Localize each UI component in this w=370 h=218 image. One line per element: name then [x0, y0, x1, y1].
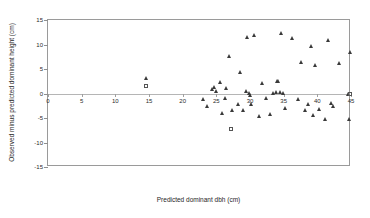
data-point-triangle: [323, 117, 327, 121]
y-axis-label-text: Observed minus predicted dominant height…: [8, 23, 15, 162]
y-tick-mark: [44, 69, 48, 70]
data-point-triangle: [296, 97, 300, 101]
data-point-triangle: [260, 81, 264, 85]
y-tick-mark: [44, 118, 48, 119]
x-tick-mark: [48, 94, 49, 97]
data-point-square: [348, 92, 352, 96]
data-point-triangle: [223, 96, 227, 100]
data-point-triangle: [245, 35, 249, 39]
data-point-triangle: [337, 61, 341, 65]
zero-reference-line: [48, 94, 349, 95]
x-tick-mark: [216, 94, 217, 97]
data-point-triangle: [290, 36, 294, 40]
data-point-triangle: [257, 114, 261, 118]
data-point-triangle: [252, 33, 256, 37]
x-tick-mark: [149, 94, 150, 97]
x-tick-mark: [82, 94, 83, 97]
data-point-triangle: [313, 63, 317, 67]
y-tick-mark: [44, 143, 48, 144]
x-tick-mark: [183, 94, 184, 97]
y-tick-label: 5: [40, 66, 43, 72]
data-point-triangle: [238, 70, 242, 74]
data-point-triangle: [218, 80, 222, 84]
data-point-triangle: [299, 60, 303, 64]
x-tick-mark: [317, 94, 318, 97]
y-tick-mark: [44, 45, 48, 46]
data-point-triangle: [281, 91, 285, 95]
data-point-square: [229, 127, 233, 131]
data-point-triangle: [214, 89, 218, 93]
x-tick-label: 15: [146, 98, 153, 104]
data-point-triangle: [249, 102, 253, 106]
data-point-triangle: [348, 50, 352, 54]
x-tick-label: 5: [80, 98, 83, 104]
data-point-triangle: [317, 107, 321, 111]
x-tick-label: 0: [46, 98, 49, 104]
plot-area: 151050-5-10-15 051015202530354045: [47, 19, 350, 166]
y-tick-label: -10: [34, 140, 43, 146]
x-tick-label: 45: [348, 98, 355, 104]
x-tick-label: 40: [314, 98, 321, 104]
data-point-triangle: [309, 44, 313, 48]
data-point-triangle: [230, 108, 234, 112]
data-point-triangle: [227, 54, 231, 58]
data-point-triangle: [279, 31, 283, 35]
data-point-triangle: [303, 108, 307, 112]
y-tick-label: 10: [36, 42, 43, 48]
data-point-triangle: [220, 111, 224, 115]
data-point-triangle: [268, 112, 272, 116]
data-point-triangle: [224, 86, 228, 90]
x-tick-label: 20: [179, 98, 186, 104]
x-tick-label: 25: [213, 98, 220, 104]
x-tick-mark: [115, 94, 116, 97]
data-point-triangle: [326, 38, 330, 42]
data-point-triangle: [276, 79, 280, 83]
data-point-triangle: [236, 102, 240, 106]
y-axis-label: Observed minus predicted dominant height…: [6, 19, 16, 166]
data-point-triangle: [283, 106, 287, 110]
scatter-chart-figure: Observed minus predicted dominant height…: [0, 0, 370, 218]
y-tick-mark: [44, 20, 48, 21]
data-point-triangle: [306, 102, 310, 106]
data-point-triangle: [248, 93, 252, 97]
x-tick-label: 35: [280, 98, 287, 104]
data-point-triangle: [144, 76, 148, 80]
data-point-triangle: [311, 113, 315, 117]
data-point-triangle: [201, 97, 205, 101]
y-tick-label: -15: [34, 164, 43, 170]
x-axis-label: Predicted dominant dbh (cm): [47, 196, 350, 203]
data-point-triangle: [205, 104, 209, 108]
y-tick-label: -5: [38, 115, 43, 121]
data-point-triangle: [347, 117, 351, 121]
y-tick-mark: [44, 167, 48, 168]
data-point-triangle: [331, 104, 335, 108]
data-point-triangle: [241, 108, 245, 112]
y-tick-label: 15: [36, 17, 43, 23]
data-point-square: [144, 84, 148, 88]
x-tick-label: 10: [112, 98, 119, 104]
data-point-triangle: [264, 96, 268, 100]
y-tick-label: 0: [40, 91, 43, 97]
